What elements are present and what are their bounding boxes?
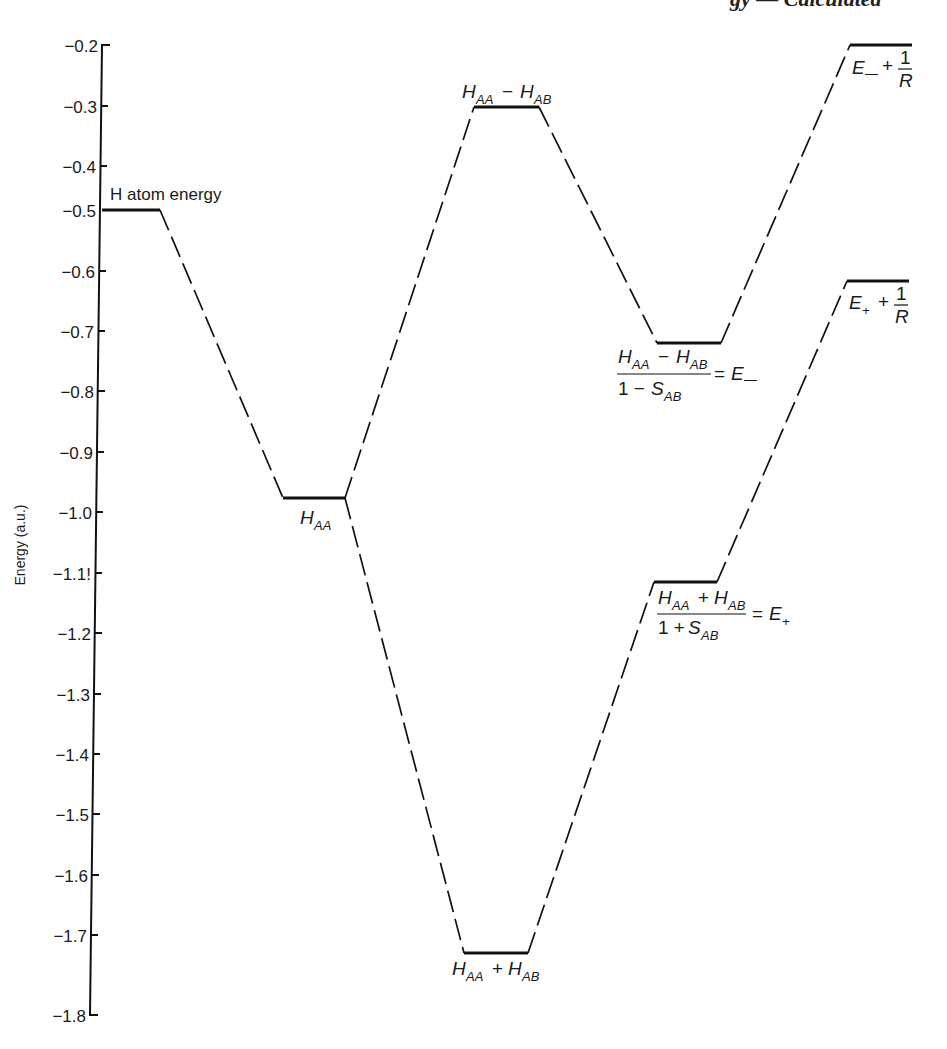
tick-label: −1.5 [55, 806, 89, 825]
svg-text:AB: AB [689, 357, 708, 372]
label-e-plus-plus-1-over-r: E + + 1 R [849, 283, 909, 327]
svg-text:+: + [878, 291, 889, 312]
tick-label: −0.2 [64, 37, 98, 56]
svg-text:AB: AB [700, 628, 719, 643]
svg-text:H: H [508, 958, 522, 979]
tick-label: −0.7 [60, 323, 94, 342]
svg-text:S: S [651, 378, 664, 399]
svg-text:—: — [864, 66, 879, 81]
tick-label: −1.2 [57, 625, 91, 644]
svg-text:1 −: 1 − [618, 378, 645, 399]
svg-text:AB: AB [727, 598, 746, 613]
svg-text:R: R [899, 70, 913, 91]
svg-text:H: H [676, 346, 690, 367]
tick-label: −1.3 [56, 686, 90, 705]
svg-text:+: + [698, 587, 709, 608]
y-axis-title: Energy (a.u.) [12, 505, 28, 586]
connector-minus-eminus [539, 107, 657, 343]
connector-hatom-haa [160, 210, 283, 498]
svg-text:−: − [658, 346, 669, 367]
tick-label: −1.8 [52, 1007, 86, 1026]
svg-text:H: H [714, 587, 728, 608]
svg-text:E: E [731, 363, 744, 384]
svg-text:=: = [752, 603, 763, 624]
label-h-aa-minus-h-ab: H AA − H AB [462, 81, 552, 107]
label-e-minus: H AA − H AB 1 − S AB = E — [617, 346, 758, 404]
svg-text:AA: AA [465, 969, 483, 984]
svg-text:H: H [300, 507, 314, 528]
svg-text:+: + [862, 303, 870, 318]
svg-text:1: 1 [900, 47, 911, 68]
running-header-fragment: gy — Calculated [729, 0, 883, 11]
svg-text:E: E [769, 603, 782, 624]
svg-text:1: 1 [896, 283, 907, 304]
label-h-aa-plus-h-ab: H AA + H AB [452, 958, 540, 984]
svg-text:H: H [618, 346, 632, 367]
svg-text:=: = [714, 363, 725, 384]
tick-label: −1.6 [54, 867, 88, 886]
svg-text:AA: AA [631, 357, 649, 372]
tick-label: −1.7 [53, 927, 87, 946]
connector-eplus-eplus-r [717, 281, 847, 582]
svg-text:1 +: 1 + [658, 617, 685, 638]
svg-text:R: R [895, 306, 909, 327]
svg-text:—: — [743, 372, 758, 387]
svg-text:H: H [452, 958, 466, 979]
tick-label: −0.8 [60, 383, 94, 402]
svg-text:E: E [852, 57, 865, 78]
y-axis: −0.2 −0.3 −0.4 −0.5 −0.6 −0.7 −0.8 −0.9 … [12, 37, 110, 1026]
svg-text:H: H [462, 81, 476, 102]
tick-label: −0.9 [59, 444, 93, 463]
tick-label: −0.6 [61, 263, 95, 282]
tick-label: −0.3 [63, 98, 97, 117]
connector-haa-plus [345, 498, 464, 953]
svg-text:AB: AB [521, 969, 540, 984]
energy-level-diagram: gy — Calculated −0.2 −0.3 −0.4 −0.5 −0 [0, 0, 947, 1049]
svg-text:H: H [658, 587, 672, 608]
svg-text:E: E [849, 292, 862, 313]
tick-label: −1.1! [53, 565, 91, 584]
svg-text:AA: AA [475, 92, 493, 107]
svg-text:S: S [688, 617, 701, 638]
tick-label: −0.4 [62, 158, 96, 177]
level-connectors [160, 45, 850, 953]
label-h-aa: H AA [300, 507, 331, 533]
svg-text:AB: AB [663, 389, 682, 404]
label-e-plus: H AA + H AB 1 + S AB = E + [657, 587, 790, 643]
svg-text:+: + [492, 958, 503, 979]
tick-label: −1.4 [55, 746, 89, 765]
svg-text:AB: AB [533, 92, 552, 107]
level-labels: H atom energy H AA H AA − H AB H AA + H … [110, 47, 913, 984]
connector-haa-minus [345, 107, 474, 498]
y-axis-line [90, 45, 110, 1015]
svg-text:+: + [882, 55, 893, 76]
svg-text:+: + [782, 614, 790, 629]
tick-label: −1.0 [58, 504, 92, 523]
svg-text:AA: AA [671, 598, 689, 613]
label-e-minus-plus-1-over-r: E — + 1 R [852, 47, 913, 91]
label-h-atom: H atom energy [110, 185, 222, 204]
connector-plus-eplus [528, 582, 654, 953]
svg-text:−: − [502, 81, 513, 102]
svg-text:AA: AA [313, 518, 331, 533]
svg-text:H: H [520, 81, 534, 102]
tick-label: −0.5 [62, 202, 96, 221]
connector-eminus-eminus-r [721, 45, 850, 343]
